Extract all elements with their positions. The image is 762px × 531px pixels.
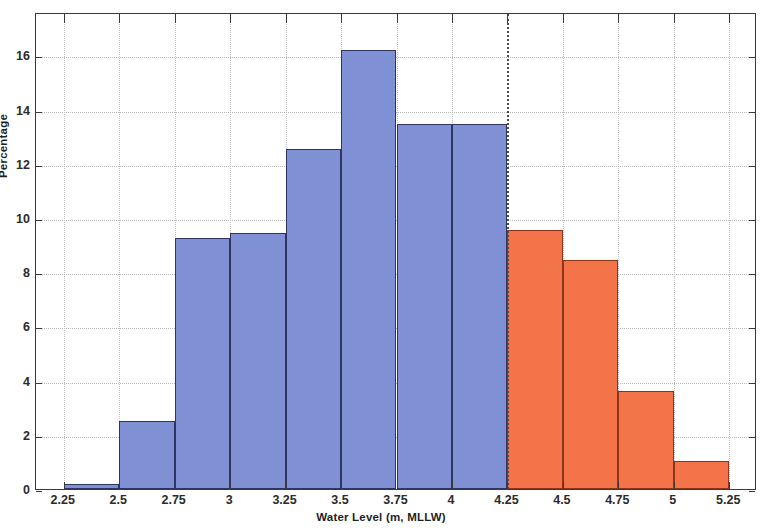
histogram-bar <box>286 149 341 489</box>
y-axis-tick-label: 16 <box>16 50 30 63</box>
gridline-vertical <box>674 14 675 489</box>
x-axis-tick <box>230 482 231 489</box>
histogram-bar <box>618 391 673 489</box>
x-axis-tick-top <box>397 14 398 23</box>
x-axis-tick-top <box>729 14 730 23</box>
y-axis-tick-right <box>749 383 755 384</box>
y-axis-tick-label: 8 <box>23 267 30 280</box>
y-axis-tick-label: 2 <box>23 430 30 443</box>
y-axis-tick-right <box>749 57 755 58</box>
y-axis-tick-right <box>749 220 755 221</box>
y-axis-tick-label: 14 <box>16 105 30 118</box>
x-axis-tick <box>175 482 176 489</box>
y-axis-tick-label: 12 <box>16 159 30 172</box>
histogram-bar <box>507 230 562 489</box>
histogram-figure: Percentage 0246810121416 2.252.52.7533.2… <box>0 0 762 531</box>
x-axis-tick-top <box>286 14 287 23</box>
x-axis-tick-label: 2.75 <box>161 494 185 507</box>
histogram-bar <box>175 238 230 489</box>
y-axis-tick-label: 4 <box>23 376 30 389</box>
histogram-bar <box>119 421 174 489</box>
gridline-vertical <box>119 14 120 489</box>
gridline-vertical <box>64 14 65 489</box>
x-axis-tick-label: 4.5 <box>553 494 570 507</box>
y-axis-tick <box>36 220 42 221</box>
y-axis-tick <box>36 383 42 384</box>
x-axis-tick-top <box>452 14 453 23</box>
y-axis-tick <box>36 57 42 58</box>
y-axis-tick-label: 6 <box>23 321 30 334</box>
histogram-bar <box>230 233 285 489</box>
y-axis-tick-right <box>749 328 755 329</box>
y-axis-tick-right <box>749 437 755 438</box>
x-axis-tick-label: 4.75 <box>605 494 629 507</box>
x-axis-tick <box>507 482 508 489</box>
x-axis-tick <box>341 482 342 489</box>
y-axis-tick <box>36 328 42 329</box>
histogram-bar <box>397 124 452 489</box>
x-axis-tick-top <box>341 14 342 23</box>
x-axis-tick-top <box>674 14 675 23</box>
x-axis-tick-top <box>64 14 65 23</box>
x-axis-tick-label: 4 <box>447 494 454 507</box>
x-axis-tick <box>119 482 120 489</box>
x-axis-tick-top <box>507 14 508 23</box>
x-axis-tick-top <box>175 14 176 23</box>
histogram-bar <box>674 461 729 489</box>
x-axis-tick-label: 5.25 <box>716 494 740 507</box>
x-axis-tick-label-layer: 2.252.52.7533.253.53.7544.254.54.7555.25 <box>35 494 756 510</box>
x-axis-tick <box>286 482 287 489</box>
x-axis-tick-top <box>618 14 619 23</box>
y-axis-tick-label: 10 <box>16 213 30 226</box>
histogram-bar <box>341 50 396 489</box>
y-axis-tick <box>36 491 42 492</box>
x-axis-tick-label: 3.5 <box>331 494 348 507</box>
y-axis-tick-right <box>749 112 755 113</box>
y-axis-tick-label: 0 <box>23 484 30 497</box>
x-axis-tick <box>452 482 453 489</box>
x-axis-tick-top <box>563 14 564 23</box>
y-axis-tick-right <box>749 274 755 275</box>
y-axis-tick-right <box>749 166 755 167</box>
x-axis-title: Water Level (m, MLLW) <box>0 511 762 523</box>
x-axis-tick <box>563 482 564 489</box>
y-axis-tick <box>36 112 42 113</box>
y-axis-tick <box>36 274 42 275</box>
x-axis-tick <box>64 482 65 489</box>
x-axis-tick <box>674 482 675 489</box>
x-axis-tick-top <box>119 14 120 23</box>
x-axis-tick-label: 2.5 <box>109 494 126 507</box>
histogram-bar <box>64 484 119 489</box>
x-axis-tick <box>397 482 398 489</box>
x-axis-tick-label: 5 <box>669 494 676 507</box>
x-axis-tick-label: 3 <box>226 494 233 507</box>
x-axis-tick-label: 3.75 <box>383 494 407 507</box>
x-axis-tick-top <box>230 14 231 23</box>
histogram-bar <box>563 260 618 489</box>
x-axis-tick-label: 3.25 <box>272 494 296 507</box>
x-axis-tick <box>618 482 619 489</box>
gridline-vertical <box>729 14 730 489</box>
y-axis-tick-right <box>749 491 755 492</box>
plot-area <box>35 13 756 490</box>
x-axis-tick <box>729 482 730 489</box>
x-axis-tick-label: 2.25 <box>51 494 75 507</box>
y-axis-tick <box>36 166 42 167</box>
y-axis-tick-label-layer: 0246810121416 <box>0 13 30 490</box>
y-axis-tick <box>36 437 42 438</box>
x-axis-tick-label: 4.25 <box>494 494 518 507</box>
histogram-bar <box>452 124 507 489</box>
